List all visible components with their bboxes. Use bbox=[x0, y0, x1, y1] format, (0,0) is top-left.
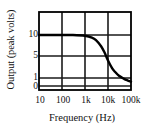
chart-figure: Output (peak volts) 10 5 1 0 10 100 1k bbox=[0, 0, 144, 131]
x-tick-label-100k: 100k bbox=[122, 96, 141, 106]
x-axis-title: Frequency (Hz) bbox=[26, 112, 138, 123]
x-tick-label-10k: 10k bbox=[101, 96, 115, 106]
x-tick-label-100: 100 bbox=[56, 96, 70, 106]
x-tick-label-10: 10 bbox=[35, 96, 45, 106]
x-tick-label-1k: 1k bbox=[81, 96, 91, 106]
